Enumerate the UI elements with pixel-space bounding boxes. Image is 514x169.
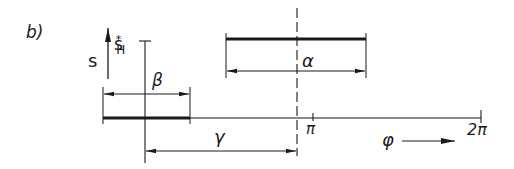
pi-tick-label: π (306, 122, 315, 137)
two-pi-tick-label: 2π (467, 122, 487, 138)
s-h-sub: H (116, 43, 125, 57)
phi-label: φ (382, 131, 394, 149)
panel-label: b) (26, 24, 43, 41)
s-label: s (88, 52, 97, 70)
gamma-label: γ (214, 128, 225, 146)
diagram-canvas (0, 0, 514, 169)
s-h-star-label: s*H (114, 36, 137, 53)
alpha-label: α (302, 52, 314, 70)
beta-label: β (152, 72, 163, 89)
